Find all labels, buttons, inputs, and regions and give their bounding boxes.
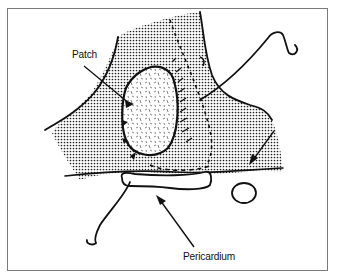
pericardium-label: Pericardium <box>183 250 235 262</box>
pericardium-strip <box>122 172 212 190</box>
wire-lower-left <box>87 182 130 244</box>
patch <box>122 67 177 155</box>
patch-label: Patch <box>72 48 97 60</box>
anatomical-diagram <box>0 0 346 278</box>
wire-upper-right <box>200 32 297 100</box>
pericardium-arrow <box>160 200 194 247</box>
small-vessel-ring <box>232 183 256 203</box>
